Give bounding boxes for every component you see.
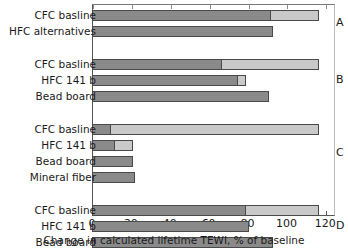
category-label: HFC 141 b bbox=[0, 140, 96, 151]
category-label: HFC 141 b bbox=[0, 75, 96, 86]
x-tick-top bbox=[171, 4, 172, 9]
category-label: HFC alternatives bbox=[0, 26, 96, 37]
category-label: CFC basline bbox=[0, 124, 96, 135]
bar-segment-primary bbox=[92, 221, 249, 232]
bar-segment-primary bbox=[92, 59, 222, 70]
category-label: CFC basline bbox=[0, 205, 96, 216]
bar-segment-secondary bbox=[245, 205, 320, 216]
x-tick-label: 120 bbox=[315, 218, 336, 230]
category-label: HFC 141 b bbox=[0, 221, 96, 232]
category-label: Bead board bbox=[0, 91, 96, 102]
x-tick-top bbox=[132, 4, 133, 9]
bar-segment-secondary bbox=[270, 10, 320, 21]
bar-segment-primary bbox=[92, 172, 135, 183]
category-label: CFC basline bbox=[0, 10, 96, 21]
bar-segment-primary bbox=[92, 91, 269, 102]
x-tick-top bbox=[326, 4, 327, 9]
bar-segment-primary bbox=[92, 156, 133, 167]
bar-segment-primary bbox=[92, 205, 246, 216]
bar-segment-secondary bbox=[221, 59, 319, 70]
bar-segment-primary bbox=[92, 10, 271, 21]
bar-segment-secondary bbox=[114, 140, 132, 151]
group-letter: B bbox=[336, 74, 344, 86]
x-tick-top bbox=[287, 4, 288, 9]
category-label: Bead board bbox=[0, 156, 96, 167]
group-letter: C bbox=[336, 147, 344, 159]
x-tick-label: 100 bbox=[276, 218, 297, 230]
bar-segment-primary bbox=[92, 26, 273, 37]
x-tick-top bbox=[210, 4, 211, 9]
bar-segment-secondary bbox=[237, 75, 246, 86]
tewi-bar-chart: 020406080100120 CFC baslineHFC alternati… bbox=[0, 0, 348, 250]
x-axis-title: Change in calculated lifetime TEWI, % of… bbox=[0, 234, 348, 247]
group-letter: D bbox=[336, 220, 344, 232]
bar-segment-primary bbox=[92, 75, 238, 86]
bar-segment-secondary bbox=[110, 124, 319, 135]
group-letter: A bbox=[336, 17, 344, 29]
x-tick-top bbox=[249, 4, 250, 9]
x-tick-major bbox=[326, 211, 327, 216]
category-label: CFC basline bbox=[0, 59, 96, 70]
category-label: Mineral fiber bbox=[0, 172, 96, 183]
